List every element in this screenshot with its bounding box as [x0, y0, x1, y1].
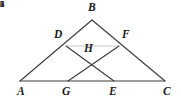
- vertex-label-E: E: [109, 86, 117, 98]
- angle-label-6: 6: [0, 0, 4, 9]
- cevian-FG: [68, 46, 119, 81]
- vertex-label-H: H: [84, 43, 93, 55]
- vertex-label-D: D: [54, 29, 62, 41]
- vertex-label-C: C: [163, 86, 171, 98]
- vertex-label-G: G: [62, 86, 70, 98]
- vertex-label-F: F: [122, 29, 130, 41]
- vertex-label-B: B: [88, 2, 96, 14]
- vertex-label-A: A: [17, 86, 25, 98]
- geometry-diagram: A B C D E F G H 1 2 3 4 5 6: [0, 0, 181, 108]
